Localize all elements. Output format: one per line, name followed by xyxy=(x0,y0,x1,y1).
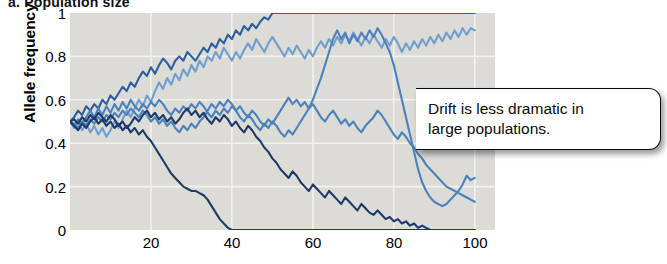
x-axis-ticks: 20 40 60 80 100 xyxy=(0,234,667,260)
y-tick-0_8: 0.8 xyxy=(45,48,66,65)
genetic-drift-figure: a. Population size Allele frequency 1 0.… xyxy=(0,0,667,264)
y-tick-1: 1 xyxy=(58,5,66,22)
x-tick-40: 40 xyxy=(224,234,241,251)
callout-line-1: Drift is less dramatic in xyxy=(428,100,584,117)
callout-box: Drift is less dramatic in large populati… xyxy=(416,88,661,150)
series-population-6-declining-navy xyxy=(70,108,475,230)
series-population-5-lost-at-zero xyxy=(70,117,475,230)
y-tick-0_4: 0.4 xyxy=(45,135,66,152)
y-tick-0_2: 0.2 xyxy=(45,178,66,195)
x-tick-100: 100 xyxy=(462,234,487,251)
callout-line-2: large populations. xyxy=(428,120,550,137)
x-tick-20: 20 xyxy=(143,234,160,251)
x-tick-60: 60 xyxy=(305,234,322,251)
y-tick-0_6: 0.6 xyxy=(45,91,66,108)
y-axis-ticks: 1 0.8 0.6 0.4 0.2 0 xyxy=(22,0,66,264)
series-population-1-fixed-at-1 xyxy=(70,13,475,122)
x-tick-80: 80 xyxy=(386,234,403,251)
callout-text: Drift is less dramatic in large populati… xyxy=(416,99,594,140)
